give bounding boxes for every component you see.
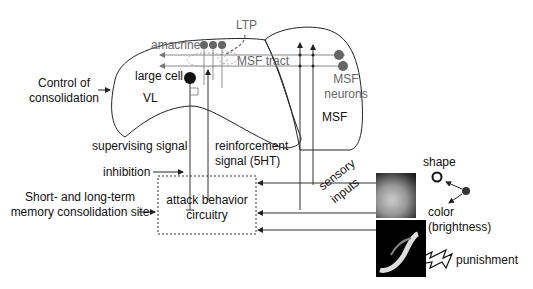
- punishment-image: [376, 220, 426, 277]
- prey-image: [376, 173, 416, 218]
- reinforcement-label-2: signal (5HT): [215, 154, 280, 168]
- amacrine-label: amacrine: [151, 38, 200, 52]
- control-label-1: Control of: [28, 76, 100, 90]
- msf-label: MSF: [322, 110, 347, 124]
- vl-label: VL: [143, 91, 158, 105]
- msf-neurons-label-2: neurons: [322, 87, 370, 101]
- attack-label-1: attack behavior: [158, 193, 256, 207]
- ltp-label: LTP: [236, 18, 257, 32]
- inhibition-label: inhibition: [103, 165, 150, 179]
- memory-label-1: Short- and long-term: [10, 190, 150, 204]
- punishment-label: punishment: [456, 253, 518, 267]
- large-cell-label: large cell: [135, 69, 183, 83]
- supervising-signal-label: supervising signal: [92, 139, 187, 153]
- memory-label-2: memory consolidation site: [10, 205, 150, 219]
- msf-neurons-label-1: MSF: [326, 72, 366, 86]
- shape-icon: [433, 173, 442, 182]
- color-label-2: (brightness): [428, 220, 491, 234]
- reinforcement-label-1: reinforcement: [215, 139, 288, 153]
- control-label-2: consolidation: [28, 91, 100, 105]
- msf-tract-label: MSF tract: [237, 54, 289, 68]
- color-label-1: color: [428, 205, 454, 219]
- attack-label-2: circuitry: [158, 208, 256, 222]
- shape-label: shape: [423, 155, 456, 169]
- stimulus-dot-icon: [462, 187, 470, 195]
